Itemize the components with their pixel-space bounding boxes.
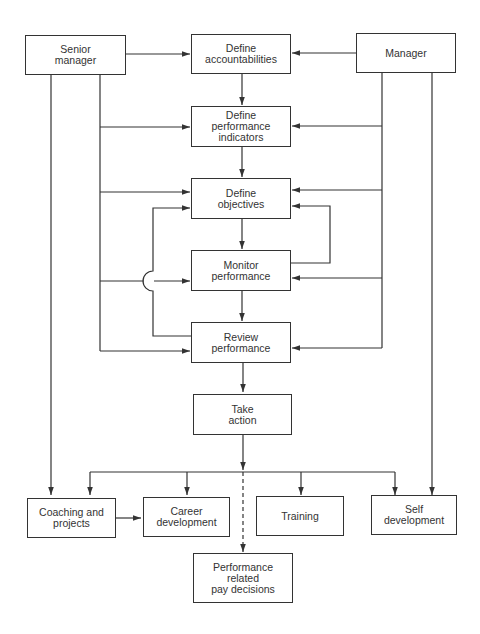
- node-label: Performance related pay decisions: [211, 562, 275, 595]
- node-define-accountabilities: Define accountabilities: [191, 34, 291, 74]
- node-label: Monitor performance: [212, 260, 271, 282]
- node-label: Review performance: [212, 332, 271, 354]
- node-define-performance-indicators: Define performance indicators: [191, 106, 291, 147]
- edge-review-to-objectives-loop: [143, 208, 192, 336]
- node-performance-related-pay-decisions: Performance related pay decisions: [193, 553, 293, 603]
- node-senior-manager: Senior manager: [25, 35, 126, 75]
- node-career-development: Career development: [143, 497, 230, 537]
- node-label: Manager: [385, 48, 426, 59]
- node-label: Coaching and projects: [39, 507, 104, 529]
- node-label: Senior manager: [55, 44, 96, 66]
- node-manager: Manager: [356, 33, 456, 73]
- node-training: Training: [256, 496, 344, 536]
- node-label: Career development: [156, 506, 216, 528]
- node-self-development: Self development: [371, 495, 457, 535]
- node-label: Define performance indicators: [212, 110, 271, 143]
- node-define-objectives: Define objectives: [191, 178, 291, 219]
- node-label: Define objectives: [218, 188, 265, 210]
- node-take-action: Take action: [193, 394, 292, 435]
- edge-monitor-to-objectives-loop: [290, 206, 330, 263]
- node-label: Define accountabilities: [205, 43, 277, 65]
- node-coaching-and-projects: Coaching and projects: [27, 498, 116, 538]
- performance-management-flowchart: [0, 0, 480, 634]
- node-label: Self development: [384, 504, 444, 526]
- node-label: Training: [281, 511, 319, 522]
- node-monitor-performance: Monitor performance: [191, 250, 291, 291]
- node-label: Take action: [228, 404, 256, 426]
- node-review-performance: Review performance: [191, 322, 291, 363]
